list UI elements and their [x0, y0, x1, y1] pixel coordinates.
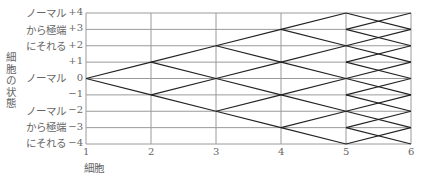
y-axis-title-char: 態: [5, 98, 17, 110]
y-tick-label: +1: [68, 56, 83, 66]
y-tick-label: +4: [68, 7, 83, 17]
y-tick-label: +3: [68, 23, 83, 33]
lower-label-line-2: から極端: [26, 122, 66, 133]
upper-label-line-1: ノーマル: [26, 8, 66, 19]
y-tick-label: −2: [68, 105, 83, 115]
x-tick-label: 4: [278, 147, 284, 157]
y-tick-label: +2: [68, 40, 83, 50]
y-tick-label: −4: [68, 138, 83, 148]
grid-lines: [86, 13, 411, 144]
x-tick-label: 1: [83, 147, 89, 157]
x-tick-label: 3: [213, 147, 219, 157]
y-tick-label: −3: [68, 122, 83, 132]
x-tick-label: 2: [148, 147, 154, 157]
x-tick-label: 6: [408, 147, 414, 157]
y-tick-label: 0: [77, 73, 83, 83]
upper-label-line-2: から極端: [26, 25, 66, 36]
lower-label-line-3: にそれる: [26, 138, 66, 149]
y-axis-title: 細胞の状態: [5, 52, 17, 110]
x-tick-label: 5: [343, 147, 349, 157]
middle-label: ノーマル: [26, 73, 66, 84]
x-axis-title: 細胞: [84, 163, 104, 174]
y-axis-title-char: の: [5, 75, 17, 87]
y-tick-label: −1: [68, 89, 83, 99]
y-axis-title-char: 細: [5, 52, 17, 64]
upper-label-line-3: にそれる: [26, 41, 66, 52]
lower-label-line-1: ノーマル: [26, 106, 66, 117]
